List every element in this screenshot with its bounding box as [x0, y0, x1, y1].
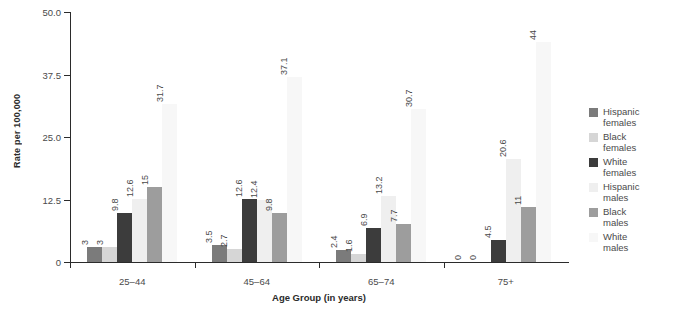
bar[interactable]: 6.9 — [366, 228, 381, 263]
y-tick-mark — [64, 137, 70, 138]
bar-value-label: 6.9 — [364, 219, 374, 232]
legend-swatch — [589, 108, 598, 117]
y-tick-label: 12.5 — [43, 194, 62, 205]
x-tick-mark — [195, 262, 196, 268]
legend-swatch — [589, 133, 598, 142]
y-tick-mark — [64, 200, 70, 201]
chart-container: Rate per 100,000 012.525.037.550.0 339.8… — [0, 0, 674, 333]
bar-value-label: 9.8 — [115, 205, 125, 218]
x-axis-title: Age Group (in years) — [70, 292, 568, 303]
y-axis-line — [70, 12, 71, 262]
x-tick-mark — [444, 262, 445, 268]
legend-label: Whitemales — [603, 231, 628, 253]
y-axis-title: Rate per 100,000 — [6, 0, 28, 262]
y-tick-label: 37.5 — [43, 69, 62, 80]
bar-value-label: 3.5 — [209, 236, 219, 249]
bar[interactable]: 31.7 — [162, 104, 177, 263]
bar-value-label: 0 — [473, 257, 483, 262]
x-tick-mark — [70, 262, 71, 268]
y-tick-mark — [64, 12, 70, 13]
bar[interactable]: 20.6 — [506, 159, 521, 262]
y-tick-label: 50.0 — [43, 7, 62, 18]
bar-value-label: 15 — [145, 180, 155, 190]
legend-item[interactable]: Hispanicfemales — [589, 106, 674, 128]
bar-value-label: 12.4 — [254, 189, 264, 207]
legend-label: Blackmales — [603, 206, 628, 228]
bar-value-label: 0 — [458, 257, 468, 262]
bar-value-label: 3 — [100, 242, 110, 247]
bar[interactable]: 1.6 — [351, 254, 366, 262]
bar[interactable]: 12.6 — [132, 199, 147, 262]
bar[interactable]: 11 — [521, 207, 536, 262]
bar-value-label: 31.7 — [160, 93, 170, 111]
bar[interactable]: 3 — [87, 247, 102, 262]
bar-value-label: 3 — [85, 242, 95, 247]
bar-group: 3.52.712.612.49.837.1 — [212, 12, 302, 262]
bar[interactable]: 30.7 — [411, 109, 426, 263]
bar-value-label: 44 — [533, 35, 543, 45]
bar-value-label: 2.7 — [224, 240, 234, 253]
plot-area: 012.525.037.550.0 339.812.61531.73.52.71… — [70, 12, 568, 262]
bar[interactable]: 12.6 — [242, 199, 257, 262]
bar[interactable]: 3 — [102, 247, 117, 262]
legend-label: Blackfemales — [603, 131, 636, 153]
legend-item[interactable]: Blackfemales — [589, 131, 674, 153]
bar-value-label: 11 — [518, 200, 528, 209]
legend-swatch — [589, 158, 598, 167]
bar-group: 004.520.61144 — [461, 12, 551, 262]
bar-value-label: 13.2 — [379, 185, 389, 203]
legend-label: Hispanicmales — [603, 181, 639, 203]
legend-label: Hispanicfemales — [603, 106, 639, 128]
legend-swatch — [589, 208, 598, 217]
y-tick-mark — [64, 75, 70, 76]
y-tick-label: 25.0 — [43, 132, 62, 143]
legend-label: Whitefemales — [603, 156, 636, 178]
bar[interactable]: 37.1 — [287, 77, 302, 263]
x-category-label: 45–64 — [244, 276, 270, 287]
bar-value-label: 37.1 — [284, 66, 294, 84]
bar[interactable]: 7.7 — [396, 224, 411, 263]
legend-item[interactable]: Hispanicmales — [589, 181, 674, 203]
bar-value-label: 9.8 — [269, 205, 279, 218]
x-category-label: 75+ — [498, 276, 514, 287]
bar[interactable]: 13.2 — [381, 196, 396, 262]
bar-value-label: 12.6 — [130, 188, 140, 206]
bar-value-label: 7.7 — [394, 215, 404, 228]
bar-group: 339.812.61531.7 — [87, 12, 177, 262]
bar[interactable]: 4.5 — [491, 240, 506, 263]
y-tick-label: 0 — [56, 257, 61, 268]
legend-swatch — [589, 233, 598, 242]
legend-item[interactable]: Whitefemales — [589, 156, 674, 178]
legend: HispanicfemalesBlackfemalesWhitefemalesH… — [589, 106, 674, 256]
bar[interactable]: 44 — [536, 42, 551, 262]
bar-value-label: 4.5 — [488, 231, 498, 244]
bar-group: 2.41.66.913.27.730.7 — [336, 12, 426, 262]
bar[interactable]: 9.8 — [272, 213, 287, 262]
bar[interactable]: 15 — [147, 187, 162, 262]
bar-value-label: 30.7 — [409, 98, 419, 116]
legend-swatch — [589, 183, 598, 192]
legend-item[interactable]: Whitemales — [589, 231, 674, 253]
bar-value-label: 2.4 — [334, 242, 344, 255]
legend-item[interactable]: Blackmales — [589, 206, 674, 228]
bar-value-label: 20.6 — [503, 148, 513, 166]
x-tick-mark — [319, 262, 320, 268]
bar[interactable]: 2.7 — [227, 249, 242, 263]
x-category-label: 25–44 — [119, 276, 145, 287]
x-category-label: 65–74 — [368, 276, 394, 287]
bar-value-label: 12.6 — [239, 188, 249, 206]
bar-value-label: 1.6 — [349, 246, 359, 259]
bar[interactable]: 9.8 — [117, 213, 132, 262]
